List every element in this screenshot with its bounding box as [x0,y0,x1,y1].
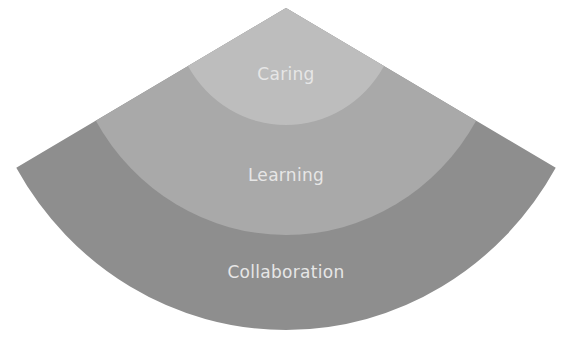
learning-label: Learning [248,167,324,184]
collaboration-label: Collaboration [227,264,344,281]
caring-label: Caring [257,66,314,83]
